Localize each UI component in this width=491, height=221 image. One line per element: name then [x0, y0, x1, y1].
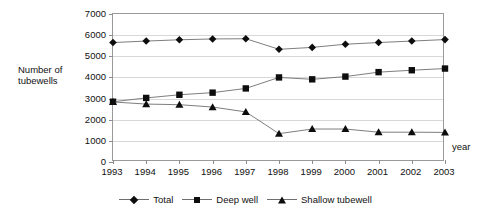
data-point-diamond [408, 37, 416, 45]
data-point-square [243, 85, 249, 91]
series-deep-well [110, 65, 448, 105]
triangle-marker-icon [278, 196, 286, 203]
data-point-diamond [142, 37, 150, 45]
data-point-diamond [275, 46, 283, 54]
plot-area [112, 13, 444, 161]
data-point-square [309, 76, 315, 82]
series-line [113, 69, 445, 102]
diamond-marker-icon [130, 195, 138, 203]
data-point-diamond [441, 36, 449, 44]
legend-entry-deep-well[interactable]: Deep well [182, 194, 258, 205]
x-tick-mark [445, 160, 446, 164]
data-point-diamond [375, 39, 383, 47]
y-tick-label: 1000 [64, 134, 106, 145]
data-point-square [375, 69, 381, 75]
chart-legend: TotalDeep wellShallow tubewell [0, 194, 491, 205]
y-tick-label: 6000 [64, 29, 106, 40]
data-point-diamond [209, 35, 217, 43]
x-axis-title: year [452, 141, 470, 152]
legend-entry-total[interactable]: Total [119, 194, 173, 205]
series-shallow-tubewell [109, 98, 449, 137]
y-tick-label: 4000 [64, 71, 106, 82]
legend-label: Total [153, 194, 173, 205]
tubewell-line-chart: Number of tubewells year 010002000300040… [0, 0, 491, 221]
legend-swatch [267, 195, 297, 204]
y-tick-label: 2000 [64, 113, 106, 124]
series-layer [113, 14, 445, 162]
y-tick-label: 3000 [64, 92, 106, 103]
square-marker-icon [194, 197, 200, 203]
data-point-diamond [342, 40, 350, 48]
data-point-diamond [242, 35, 250, 43]
legend-swatch [119, 195, 149, 204]
y-tick-label: 0 [64, 156, 106, 167]
y-tick-label: 7000 [64, 8, 106, 19]
data-point-square [342, 73, 348, 79]
legend-label: Deep well [216, 194, 258, 205]
data-point-square [276, 74, 282, 80]
legend-entry-shallow-tubewell[interactable]: Shallow tubewell [267, 194, 372, 205]
data-point-diamond [308, 44, 316, 52]
legend-label: Shallow tubewell [301, 194, 372, 205]
y-tick-label: 5000 [64, 50, 106, 61]
data-point-square [176, 92, 182, 98]
x-tick-label: 2003 [424, 166, 464, 177]
data-point-diamond [176, 36, 184, 44]
legend-swatch [182, 195, 212, 204]
series-line [113, 102, 445, 134]
data-point-square [442, 65, 448, 71]
data-point-square [209, 89, 215, 95]
series-total [109, 35, 449, 53]
data-point-diamond [109, 39, 117, 47]
data-point-square [409, 67, 415, 73]
